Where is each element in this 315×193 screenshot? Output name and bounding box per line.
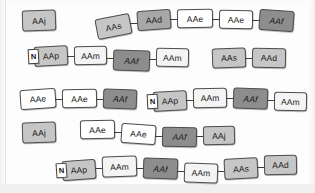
diagram-node[interactable]: AAd (136, 9, 171, 31)
node-tag-n[interactable]: N (28, 49, 40, 65)
diagram-node[interactable]: AAe (62, 89, 97, 109)
diagram-node[interactable]: AAe (219, 10, 253, 30)
diagram-node[interactable]: AAj (22, 9, 57, 31)
scan-edge-top (0, 0, 315, 4)
diagram-node[interactable]: AAm (74, 46, 107, 66)
diagram-node[interactable]: AAf (143, 157, 179, 179)
node-tag-n[interactable]: N (55, 163, 67, 179)
diagram-node[interactable]: AAs (94, 13, 132, 40)
diagram-node[interactable]: AAe (120, 123, 156, 145)
node-tag-n[interactable]: N (147, 94, 159, 110)
diagram-node[interactable]: AAf (103, 88, 138, 109)
diagram-node[interactable]: AAm (156, 48, 189, 68)
diagram-node[interactable]: AAm (184, 162, 219, 183)
diagram-node[interactable]: AAj (22, 121, 57, 143)
diagram-row-2: AApNAAmAAfAAmAAsAAd (0, 44, 315, 84)
diagram-node[interactable]: AAm (102, 155, 138, 177)
diagram-node[interactable]: AAs (223, 157, 258, 180)
diagram-node[interactable]: AAj (203, 126, 235, 146)
diagram-node[interactable]: AAd (264, 155, 297, 176)
diagram-node[interactable]: AAm (274, 92, 307, 112)
diagram-canvas: AAjAAsAAdAAeAAeAAf AApNAAmAAfAAmAAsAAd A… (0, 0, 315, 193)
diagram-row-5: AApNAAmAAfAAmAAsAAd (0, 154, 315, 193)
diagram-node[interactable]: AAf (233, 87, 269, 109)
diagram-node[interactable]: AAm (193, 88, 227, 109)
diagram-node[interactable]: AAf (113, 49, 151, 71)
diagram-node[interactable]: AAe (80, 120, 115, 140)
diagram-node[interactable]: AAf (258, 9, 294, 32)
diagram-row-1: AAjAAsAAdAAeAAeAAf (0, 8, 315, 48)
diagram-node[interactable]: AAf (162, 127, 197, 148)
diagram-node[interactable]: AAd (252, 48, 286, 69)
diagram-node[interactable]: AAe (177, 9, 213, 29)
diagram-node[interactable]: AAs (212, 47, 247, 68)
diagram-node[interactable]: AAe (19, 88, 56, 110)
